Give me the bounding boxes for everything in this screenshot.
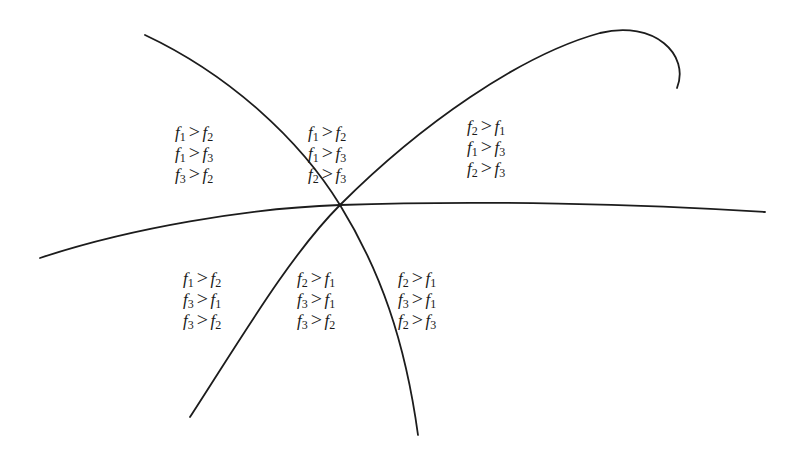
subscript: 2: [472, 166, 478, 180]
region-label-upper-middle: f1>f2f1>f3f2>f3: [308, 122, 346, 185]
subscript: 2: [215, 318, 221, 332]
inequality: f2>f3: [308, 164, 346, 185]
greater-than-operator: >: [310, 268, 321, 288]
subscript: 1: [215, 297, 221, 311]
subscript: 1: [313, 151, 319, 165]
inequality: f3>f1: [297, 289, 335, 310]
inequality: f2>f1: [398, 268, 436, 289]
subscript: 3: [340, 172, 346, 186]
subscript: 3: [188, 297, 194, 311]
greater-than-operator: >: [196, 310, 207, 330]
subscript: 1: [499, 124, 505, 138]
inequality: f3>f2: [175, 164, 213, 185]
region-label-lower-left: f1>f2f3>f1f3>f2: [183, 268, 221, 331]
greater-than-operator: >: [196, 268, 207, 288]
subscript: 3: [180, 172, 186, 186]
greater-than-operator: >: [196, 289, 207, 309]
inequality: f3>f2: [297, 310, 335, 331]
inequality: f2>f3: [467, 158, 505, 179]
subscript: 2: [302, 276, 308, 290]
subscript: 2: [329, 318, 335, 332]
subscript: 3: [302, 297, 308, 311]
greater-than-operator: >: [321, 122, 332, 142]
region-label-lower-middle: f2>f1f3>f1f3>f2: [297, 268, 335, 331]
region-label-upper-right: f2>f1f1>f3f2>f3: [467, 116, 505, 179]
inequality: f3>f1: [183, 289, 221, 310]
inequality: f3>f2: [183, 310, 221, 331]
subscript: 2: [340, 130, 346, 144]
inequality: f2>f1: [467, 116, 505, 137]
greater-than-operator: >: [411, 289, 422, 309]
curve-c: [40, 203, 765, 258]
subscript: 2: [403, 318, 409, 332]
subscript: 3: [188, 318, 194, 332]
subscript: 3: [499, 166, 505, 180]
greater-than-operator: >: [411, 310, 422, 330]
inequality: f1>f2: [308, 122, 346, 143]
region-label-upper-left: f1>f2f1>f3f3>f2: [175, 122, 213, 185]
subscript: 2: [403, 276, 409, 290]
inequality: f2>f1: [297, 268, 335, 289]
inequality: f1>f2: [183, 268, 221, 289]
greater-than-operator: >: [321, 164, 332, 184]
inequality: f2>f3: [398, 310, 436, 331]
greater-than-operator: >: [321, 143, 332, 163]
subscript: 1: [313, 130, 319, 144]
inequality: f3>f1: [398, 289, 436, 310]
inequality: f1>f3: [467, 137, 505, 158]
inequality: f1>f2: [175, 122, 213, 143]
subscript: 1: [329, 276, 335, 290]
subscript: 1: [188, 276, 194, 290]
subscript: 3: [302, 318, 308, 332]
subscript: 2: [207, 172, 213, 186]
curve-b: [190, 30, 680, 417]
subscript: 2: [215, 276, 221, 290]
preference-region-diagram: [0, 0, 798, 459]
greater-than-operator: >: [480, 158, 491, 178]
subscript: 1: [329, 297, 335, 311]
subscript: 1: [180, 151, 186, 165]
subscript: 3: [403, 297, 409, 311]
greater-than-operator: >: [411, 268, 422, 288]
intersection-point: [338, 203, 342, 207]
region-label-lower-right: f2>f1f3>f1f2>f3: [398, 268, 436, 331]
subscript: 1: [472, 145, 478, 159]
greater-than-operator: >: [188, 143, 199, 163]
subscript: 2: [472, 124, 478, 138]
inequality: f1>f3: [175, 143, 213, 164]
subscript: 3: [207, 151, 213, 165]
greater-than-operator: >: [188, 164, 199, 184]
greater-than-operator: >: [188, 122, 199, 142]
subscript: 1: [430, 276, 436, 290]
subscript: 3: [499, 145, 505, 159]
subscript: 3: [340, 151, 346, 165]
greater-than-operator: >: [310, 289, 321, 309]
greater-than-operator: >: [480, 116, 491, 136]
subscript: 3: [430, 318, 436, 332]
greater-than-operator: >: [480, 137, 491, 157]
inequality: f1>f3: [308, 143, 346, 164]
subscript: 2: [207, 130, 213, 144]
greater-than-operator: >: [310, 310, 321, 330]
subscript: 1: [430, 297, 436, 311]
subscript: 2: [313, 172, 319, 186]
subscript: 1: [180, 130, 186, 144]
curve-a: [145, 35, 418, 435]
